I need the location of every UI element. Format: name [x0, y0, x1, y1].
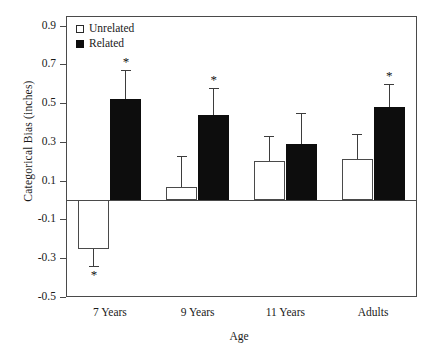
bar-related-adults — [374, 107, 405, 200]
bar-related-9-years — [198, 115, 229, 200]
significance-asterisk: * — [86, 268, 102, 281]
y-axis-tick — [60, 64, 66, 65]
y-axis-tick-label: -0.3 — [0, 252, 56, 264]
x-axis-title: Age — [60, 330, 418, 342]
significance-asterisk: * — [206, 73, 222, 86]
legend-label-unrelated: Unrelated — [89, 21, 134, 36]
significance-asterisk: * — [118, 55, 134, 68]
y-axis-tick-label: 0.5 — [0, 97, 56, 109]
y-axis-tick-label: 0.7 — [0, 58, 56, 70]
error-bar-stem — [213, 88, 214, 115]
y-axis-tick — [60, 103, 66, 104]
error-bar-cap — [384, 84, 394, 85]
error-bar-stem — [125, 70, 126, 99]
error-bar-cap — [121, 70, 131, 71]
y-axis-tick — [60, 219, 66, 220]
y-axis-tick — [60, 142, 66, 143]
legend-label-related: Related — [89, 36, 124, 51]
y-axis-tick-label: -0.5 — [0, 291, 56, 303]
error-bar-stem — [269, 136, 270, 161]
error-bar-stem — [181, 156, 182, 187]
error-bar-cap — [352, 134, 362, 135]
chart-figure: Categorical Bias (inches) -0.5-0.3-0.10.… — [0, 0, 446, 357]
y-axis-tick — [60, 297, 66, 298]
bar-unrelated-7-years — [78, 200, 109, 248]
legend-item-related: Related — [76, 36, 134, 51]
error-bar-cap — [296, 113, 306, 114]
y-axis-tick-label: 0.3 — [0, 136, 56, 148]
legend-item-unrelated: Unrelated — [76, 21, 134, 36]
y-axis-tick — [60, 26, 66, 27]
y-axis-tick — [60, 181, 66, 182]
legend-swatch-open-square-icon — [76, 25, 84, 33]
x-axis-label-adults: Adults — [328, 306, 418, 318]
error-bar-stem — [389, 84, 390, 107]
x-axis-label-7-years: 7 Years — [65, 306, 155, 318]
bar-unrelated-11-years — [254, 161, 285, 200]
error-bar-stem — [93, 249, 94, 266]
chart-legend: Unrelated Related — [76, 21, 134, 51]
zero-baseline — [66, 200, 417, 201]
error-bar-cap — [209, 88, 219, 89]
error-bar-stem — [357, 134, 358, 159]
y-axis-tick-label: -0.1 — [0, 213, 56, 225]
error-bar-cap — [264, 136, 274, 137]
y-axis-tick-label: 0.9 — [0, 20, 56, 32]
error-bar-stem — [301, 113, 302, 144]
y-axis-tick-label: 0.1 — [0, 175, 56, 187]
bar-related-7-years — [110, 99, 141, 200]
bar-related-11-years — [286, 144, 317, 200]
x-axis-label-11-years: 11 Years — [240, 306, 330, 318]
bar-unrelated-adults — [342, 159, 373, 200]
error-bar-cap — [177, 156, 187, 157]
legend-swatch-filled-square-icon — [76, 40, 84, 48]
y-axis-tick — [60, 258, 66, 259]
significance-asterisk: * — [381, 69, 397, 82]
x-axis-label-9-years: 9 Years — [153, 306, 243, 318]
bar-unrelated-9-years — [166, 187, 197, 201]
